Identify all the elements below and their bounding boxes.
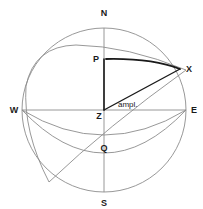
label-west: W <box>10 105 19 115</box>
label-pole: P <box>93 54 99 64</box>
label-north: N <box>101 8 108 18</box>
celestial-sphere-diagram: N S W E Z P X Q ampl. <box>0 0 203 209</box>
amplitude-radius-Z-to-X <box>104 69 180 110</box>
label-east: E <box>191 105 197 115</box>
label-south: S <box>101 198 107 208</box>
label-star: X <box>186 64 192 74</box>
oblique-great-circle-front <box>49 70 186 182</box>
label-amplitude: ampl. <box>118 100 138 109</box>
label-zenith: Z <box>96 111 102 121</box>
oblique-great-circle-back <box>26 45 186 86</box>
celestial-sphere-canvas: N S W E Z P X Q ampl. <box>0 0 203 209</box>
label-equator-point: Q <box>100 143 107 153</box>
